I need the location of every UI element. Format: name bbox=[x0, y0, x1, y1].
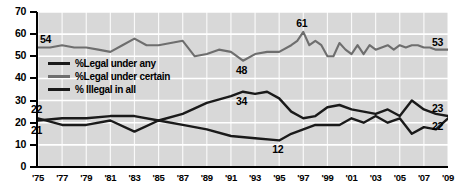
x-axis-label-y77: '77 bbox=[49, 172, 75, 183]
legend-swatch-legal-certain bbox=[48, 75, 70, 78]
legend-swatch-legal-any bbox=[48, 62, 70, 65]
annotation-34-6: 34 bbox=[236, 95, 247, 107]
annotation-54-0: 54 bbox=[40, 33, 51, 45]
y-tick-0 bbox=[30, 166, 37, 168]
legend-swatch-illegal-all bbox=[48, 88, 70, 91]
x-axis-label-y75: '75 bbox=[25, 172, 51, 183]
x-axis-label-y93: '93 bbox=[242, 172, 268, 183]
legend-label-illegal-all: % Illegal in all bbox=[75, 84, 136, 95]
y-axis-label-30: 30 bbox=[0, 94, 26, 106]
x-axis-label-y87: '87 bbox=[170, 172, 196, 183]
y-axis-label-0: 0 bbox=[0, 160, 26, 172]
chart-legend: %Legal under any %Legal under certain % … bbox=[48, 57, 170, 96]
annotation-22-9: 22 bbox=[432, 120, 443, 132]
x-axis-label-y09: '09 bbox=[435, 172, 459, 183]
annotation-12-7: 12 bbox=[272, 143, 283, 155]
x-axis-label-y83: '83 bbox=[121, 172, 147, 183]
legend-label-legal-certain: %Legal under certain bbox=[75, 71, 170, 82]
x-axis-label-y85: '85 bbox=[146, 172, 172, 183]
legend-item-illegal-all: % Illegal in all bbox=[48, 83, 170, 96]
annotation-53-3: 53 bbox=[432, 36, 443, 48]
x-axis-label-y91: '91 bbox=[218, 172, 244, 183]
y-axis-label-20: 20 bbox=[0, 116, 26, 128]
y-axis-label-40: 40 bbox=[0, 71, 26, 83]
x-axis-line bbox=[36, 166, 448, 168]
annotation-21-5: 21 bbox=[31, 124, 42, 136]
annotation-23-8: 23 bbox=[432, 102, 443, 114]
y-tick-40 bbox=[30, 77, 37, 79]
y-axis-label-10: 10 bbox=[0, 138, 26, 150]
annotation-48-1: 48 bbox=[236, 64, 247, 76]
x-axis-label-y97: '97 bbox=[290, 172, 316, 183]
y-tick-50 bbox=[30, 55, 37, 57]
y-axis-label-60: 60 bbox=[0, 27, 26, 39]
y-tick-60 bbox=[30, 33, 37, 35]
y-tick-70 bbox=[30, 11, 37, 13]
legend-label-legal-any: %Legal under any bbox=[75, 58, 156, 69]
x-axis-label-y05: '05 bbox=[387, 172, 413, 183]
annotation-22-4: 22 bbox=[31, 103, 42, 115]
y-tick-30 bbox=[30, 100, 37, 102]
x-axis-label-y99: '99 bbox=[314, 172, 340, 183]
x-axis-label-y89: '89 bbox=[194, 172, 220, 183]
annotation-61-2: 61 bbox=[296, 17, 307, 29]
y-axis-label-50: 50 bbox=[0, 49, 26, 61]
x-axis-label-y81: '81 bbox=[97, 172, 123, 183]
x-axis-label-y07: '07 bbox=[411, 172, 437, 183]
x-axis-label-y95: '95 bbox=[266, 172, 292, 183]
y-tick-10 bbox=[30, 144, 37, 146]
x-axis-label-y79: '79 bbox=[73, 172, 99, 183]
x-axis-label-y01: '01 bbox=[339, 172, 365, 183]
legend-item-legal-certain: %Legal under certain bbox=[48, 70, 170, 83]
y-axis-label-70: 70 bbox=[0, 5, 26, 17]
legend-item-legal-any: %Legal under any bbox=[48, 57, 170, 70]
x-axis-label-y03: '03 bbox=[363, 172, 389, 183]
